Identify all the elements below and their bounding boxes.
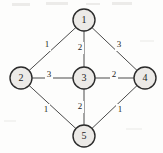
edge-weight-label-2-3: 3 (47, 69, 52, 79)
graph-node-2[interactable]: 2 (10, 67, 32, 89)
edge-weight-label-3-4: 2 (112, 69, 117, 79)
node-label-1: 1 (82, 14, 87, 25)
graph-edge-1-2 (29, 27, 76, 70)
edge-weight-label-3-5: 2 (78, 101, 83, 111)
node-layer: 12345 (10, 9, 156, 147)
graph-node-1[interactable]: 1 (73, 9, 95, 31)
graph-node-5[interactable]: 5 (73, 125, 95, 147)
edge-weight-label-1-4: 3 (117, 39, 122, 49)
graph-node-3[interactable]: 3 (73, 67, 95, 89)
graph-figure: 12345 12332121 (0, 0, 163, 153)
edge-weight-label-2-5: 1 (44, 104, 49, 114)
edge-weight-label-1-2: 1 (45, 39, 50, 49)
graph-node-4[interactable]: 4 (134, 67, 156, 89)
graph-edge-1-4 (92, 28, 137, 71)
diagram-canvas: 12345 12332121 (0, 0, 163, 153)
node-label-3: 3 (82, 72, 87, 83)
node-label-5: 5 (82, 130, 87, 141)
graph-edge-2-5 (29, 85, 76, 128)
edge-weight-label-4-5: 1 (118, 104, 123, 114)
graph-edge-4-5 (92, 86, 137, 129)
node-label-2: 2 (19, 72, 24, 83)
edge-weight-label-1-3: 2 (78, 42, 83, 52)
node-label-4: 4 (143, 72, 148, 83)
